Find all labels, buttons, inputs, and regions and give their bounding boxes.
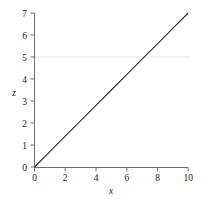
x-tick-label-6: 6 <box>124 173 129 183</box>
chart-figure: 7 6 5 4 3 2 1 0 0 2 4 6 8 10 z x <box>0 0 203 199</box>
y-tick-label-6: 6 <box>22 31 27 41</box>
x-tick-label-0: 0 <box>32 173 37 183</box>
y-tick-label-7: 7 <box>22 9 27 19</box>
x-tick-label-8: 8 <box>155 173 160 183</box>
y-tick-label-3: 3 <box>22 97 27 107</box>
line-chart: 7 6 5 4 3 2 1 0 0 2 4 6 8 10 z x <box>0 0 203 199</box>
y-tick-label-4: 4 <box>22 75 27 85</box>
x-axis-title: x <box>108 186 114 196</box>
y-axis-title: z <box>11 88 16 98</box>
x-tick-label-2: 2 <box>63 173 68 183</box>
y-tick-label-5: 5 <box>22 53 27 63</box>
x-tick-label-4: 4 <box>94 173 99 183</box>
y-tick-label-2: 2 <box>22 119 27 129</box>
x-tick-label-10: 10 <box>183 173 193 183</box>
y-tick-label-1: 1 <box>22 141 27 151</box>
y-tick-label-0: 0 <box>22 163 27 173</box>
